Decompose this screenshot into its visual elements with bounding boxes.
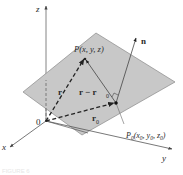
- figure-caption: FIGURE 6: [2, 168, 30, 174]
- y-axis-label: y: [161, 153, 166, 163]
- point-P: [84, 58, 87, 61]
- svg-text:0: 0: [96, 119, 99, 125]
- z-axis-label: z: [35, 4, 40, 14]
- point-P0: [114, 101, 118, 105]
- svg-text:0: 0: [106, 93, 109, 99]
- svg-text:r − r: r − r: [79, 87, 96, 97]
- x-axis: [10, 121, 46, 147]
- point-P0-label: P0(x0, y0, z0): [125, 131, 166, 141]
- normal-vector-label: n: [141, 36, 146, 46]
- point-P-label: P(x, y, z): [73, 44, 104, 54]
- x-axis-label: x: [1, 142, 6, 152]
- origin-label: 0: [36, 117, 41, 127]
- plane-normal-diagram: z x y 0 P(x, y, z) r r − r 0 r 0 n P0(x0…: [0, 0, 183, 175]
- svg-text:P0(x0, y0, z0): P0(x0, y0, z0): [125, 131, 166, 141]
- origin-point: [45, 120, 47, 122]
- vector-r-label: r: [58, 87, 62, 97]
